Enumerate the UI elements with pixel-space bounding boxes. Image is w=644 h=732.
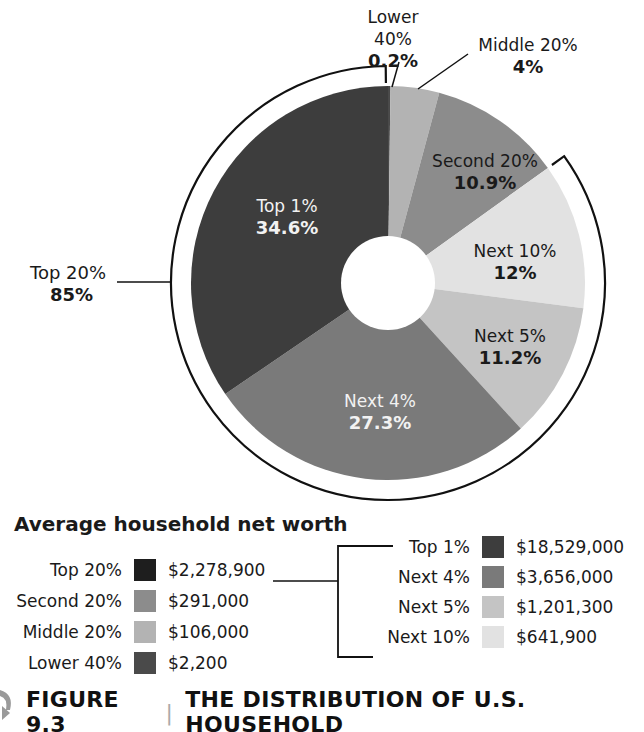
legend-row-lower40: Lower 40% $2,200 — [0, 651, 227, 675]
legend-swatch — [134, 621, 156, 643]
legend-row-top20: Top 20% $2,278,900 — [0, 558, 265, 582]
label-second20-pct: 10.9% — [420, 172, 550, 194]
legend-name: Lower 40% — [0, 653, 122, 673]
legend-swatch — [482, 536, 504, 558]
label-next5-name: Next 5% — [455, 325, 565, 347]
legend-value: $1,201,300 — [516, 597, 613, 617]
label-middle20-pct: 4% — [468, 56, 588, 78]
label-top1-name: Top 1% — [237, 195, 337, 217]
legend-value: $18,529,000 — [516, 537, 624, 557]
legend-swatch — [134, 559, 156, 581]
donut-hole — [341, 236, 435, 330]
legend-value: $2,200 — [168, 653, 227, 673]
legend-value: $106,000 — [168, 622, 249, 642]
label-middle20: Middle 20% 4% — [468, 34, 588, 78]
legend-value: $2,278,900 — [168, 560, 265, 580]
legend-title: Average household net worth — [14, 512, 348, 536]
label-lower40: Lower 40% 0.2% — [348, 6, 438, 72]
label-top20: Top 20% 85% — [30, 262, 120, 306]
legend-swatch — [134, 652, 156, 674]
legend-row-top1: Top 1% $18,529,000 — [370, 535, 624, 559]
label-next10-pct: 12% — [460, 262, 570, 284]
legend-row-middle20: Middle 20% $106,000 — [0, 620, 249, 644]
legend-row-next4: Next 4% $3,656,000 — [370, 565, 613, 589]
label-next5: Next 5% 11.2% — [455, 325, 565, 369]
legend-name: Top 1% — [370, 537, 470, 557]
legend-value: $641,900 — [516, 627, 597, 647]
legend-name: Next 4% — [370, 567, 470, 587]
legend-name: Middle 20% — [0, 622, 122, 642]
label-next5-pct: 11.2% — [455, 347, 565, 369]
legend-name: Second 20% — [0, 591, 122, 611]
legend-row-second20: Second 20% $291,000 — [0, 589, 249, 613]
legend-swatch — [482, 566, 504, 588]
figure-title: THE DISTRIBUTION OF U.S. HOUSEHOLD — [185, 687, 644, 732]
label-next10: Next 10% 12% — [460, 240, 570, 284]
legend-row-next10: Next 10% $641,900 — [370, 625, 597, 649]
legend-value: $291,000 — [168, 591, 249, 611]
figure-caption: FIGURE 9.3 | THE DISTRIBUTION OF U.S. HO… — [26, 694, 644, 730]
legend-row-next5: Next 5% $1,201,300 — [370, 595, 613, 619]
label-lower40-name: Lower 40% — [348, 6, 438, 50]
label-next10-name: Next 10% — [460, 240, 570, 262]
label-next4: Next 4% 27.3% — [325, 390, 435, 434]
legend-name: Next 10% — [370, 627, 470, 647]
label-second20: Second 20% 10.9% — [420, 150, 550, 194]
figure-arrow-icon — [0, 690, 11, 710]
label-top20-name: Top 20% — [30, 262, 120, 284]
legend-swatch — [482, 626, 504, 648]
label-lower40-pct: 0.2% — [348, 50, 438, 72]
label-top1: Top 1% 34.6% — [237, 195, 337, 239]
legend-name: Top 20% — [0, 560, 122, 580]
legend-name: Next 5% — [370, 597, 470, 617]
label-next4-name: Next 4% — [325, 390, 435, 412]
label-next4-pct: 27.3% — [325, 412, 435, 434]
legend-swatch — [482, 596, 504, 618]
label-top1-pct: 34.6% — [237, 217, 337, 239]
label-top20-pct: 85% — [30, 284, 120, 306]
legend-swatch — [134, 590, 156, 612]
label-second20-name: Second 20% — [420, 150, 550, 172]
label-middle20-name: Middle 20% — [468, 34, 588, 56]
figure-number: FIGURE 9.3 — [26, 687, 154, 732]
legend-value: $3,656,000 — [516, 567, 613, 587]
caption-separator: | — [166, 700, 174, 725]
